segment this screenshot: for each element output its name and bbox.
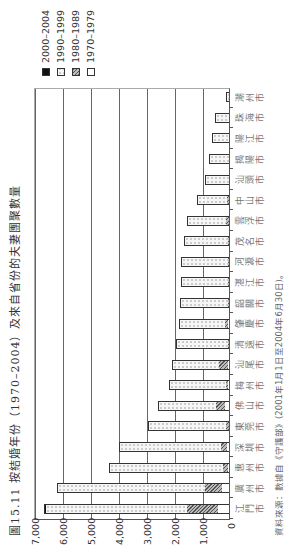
x-tick-mark (229, 518, 233, 519)
bar-segment-1990–1999 (176, 339, 228, 349)
bar-江門市 (44, 504, 229, 514)
x-tick-mark (229, 168, 233, 169)
x-tick-mark (229, 415, 233, 416)
bar-segment-1980–1989 (228, 257, 229, 267)
bar-segment-1990–1999 (197, 195, 227, 205)
bar-segment-1990–1999 (179, 319, 225, 329)
bar-segment-1990–1999 (187, 216, 226, 226)
bar-雲浮市 (187, 216, 229, 226)
bar-segment-1970–1979 (228, 319, 229, 329)
bar-segment-1970–1979 (227, 442, 229, 452)
legend-item: 2000–2004 (40, 10, 51, 76)
gridline (63, 89, 64, 519)
bar-潮州市 (226, 92, 229, 102)
bar-segment-1980–1989 (228, 339, 229, 349)
x-tick-mark (229, 230, 233, 231)
y-tick-label: 4,000 (114, 523, 125, 545)
bar-segment-1980–1989 (227, 195, 229, 205)
bar-segment-1970–1979 (222, 483, 229, 493)
y-tick-label: 1,000 (198, 523, 209, 545)
x-tick-mark (229, 477, 233, 478)
legend-item: 1970–1979 (85, 10, 96, 76)
bar-汕尾市 (172, 360, 229, 370)
x-tick-mark (229, 189, 233, 190)
bar-佛山市 (158, 401, 229, 411)
bar-segment-1980–1989 (228, 277, 229, 287)
legend: 2000–20041990–19991980–19891970–1979 (40, 10, 100, 76)
x-tick-mark (229, 353, 233, 354)
x-tick-mark (229, 209, 233, 210)
x-tick-mark (229, 148, 233, 149)
bar-segment-1990–1999 (215, 113, 229, 123)
source-note: 資料來源：數據自《守護部》(2001年1月1日至2004年6月30日)。 (272, 270, 284, 536)
bar-segment-1980–1989 (216, 401, 224, 411)
bar-梅州市 (169, 380, 229, 390)
bar-segment-1980–1989 (226, 216, 229, 226)
gridline (175, 89, 176, 519)
category-label: 肇 慶 市 (235, 317, 265, 331)
category-label: 茂 名 市 (235, 234, 265, 248)
rotated-page: 圖15.11 按結婚年份（1970–2004）及來自省份的夫妻團聚數量 01,0… (0, 0, 292, 544)
x-tick-mark (229, 271, 233, 272)
category-label: 韶 關 市 (235, 296, 265, 310)
legend-label: 1980–1989 (70, 10, 81, 63)
bar-segment-1990–1999 (205, 175, 229, 185)
bar-segment-1990–1999 (209, 154, 229, 164)
x-tick-mark (229, 374, 233, 375)
legend-label: 1970–1979 (85, 10, 96, 63)
bar-惠州市 (109, 463, 229, 473)
legend-swatch (72, 68, 80, 76)
chart-title: 圖15.11 按結婚年份（1970–2004）及來自省份的夫妻團聚數量 (6, 185, 22, 536)
category-label: 雲 浮 市 (235, 214, 265, 228)
bar-segment-1990–1999 (148, 421, 226, 431)
bar-segment-1990–1999 (226, 92, 229, 102)
x-tick-mark (229, 436, 233, 437)
bar-segment-1980–1989 (228, 236, 229, 246)
bar-segment-1990–1999 (181, 277, 228, 287)
bar-segment-1980–1989 (219, 360, 227, 370)
category-label: 梅 州 市 (235, 378, 265, 392)
bar-深圳市 (119, 442, 229, 452)
bar-segment-1970–1979 (218, 504, 229, 514)
y-tick-label: 0 (226, 523, 237, 545)
category-label: 汕 頭 市 (235, 173, 265, 187)
bar-segment-1980–1989 (187, 504, 218, 514)
gridline (35, 89, 36, 519)
bar-segment-1980–1989 (226, 421, 229, 431)
x-tick-mark (229, 333, 233, 334)
legend-item: 1980–1989 (70, 10, 81, 76)
category-label: 中 山 市 (235, 193, 265, 207)
legend-label: 1990–1999 (55, 10, 66, 63)
bar-segment-1990–1999 (169, 380, 226, 390)
category-label: 河 源 市 (235, 255, 265, 269)
x-tick-mark (229, 251, 233, 252)
x-tick-mark (229, 456, 233, 457)
legend-swatch (42, 68, 50, 76)
gridline (119, 89, 120, 519)
category-label: 清 遠 市 (235, 337, 265, 351)
gridline (147, 89, 148, 519)
plot-area: 01,0002,0003,0004,0005,0006,0007,000江 門 … (34, 88, 230, 520)
bar-清遠市 (176, 339, 229, 349)
bar-韶關市 (180, 298, 229, 308)
bar-segment-1980–1989 (205, 483, 222, 493)
bar-segment-1990–1999 (120, 442, 220, 452)
category-label: 湛 江 市 (235, 275, 265, 289)
bar-segment-1990–1999 (158, 401, 217, 411)
category-label: 廣 州 市 (235, 481, 265, 495)
x-tick-mark (229, 395, 233, 396)
category-label: 陽 江 市 (235, 131, 265, 145)
bar-湛江市 (181, 277, 229, 287)
bar-廣州市 (57, 483, 229, 493)
category-label: 汕 尾 市 (235, 358, 265, 372)
category-label: 佛 山 市 (235, 399, 265, 413)
x-tick-mark (229, 127, 233, 128)
bar-中山市 (197, 195, 229, 205)
bar-珠海市 (215, 113, 229, 123)
legend-swatch (87, 68, 95, 76)
category-label: 東 莞 市 (235, 419, 265, 433)
bar-segment-1970–1979 (225, 401, 229, 411)
legend-swatch (57, 68, 65, 76)
x-tick-mark (229, 292, 233, 293)
bar-segment-1990–1999 (181, 257, 228, 267)
